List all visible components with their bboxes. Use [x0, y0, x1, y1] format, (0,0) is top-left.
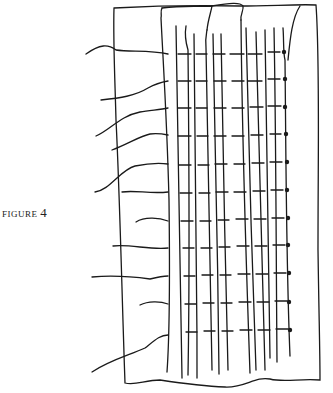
weft-tails	[86, 46, 168, 372]
warp-threads	[176, 20, 290, 378]
fold-right	[288, 6, 300, 60]
knot-dots	[282, 50, 292, 332]
weaving-drawing	[0, 0, 333, 393]
fold-top-1	[162, 6, 212, 30]
fold-left	[161, 8, 170, 372]
